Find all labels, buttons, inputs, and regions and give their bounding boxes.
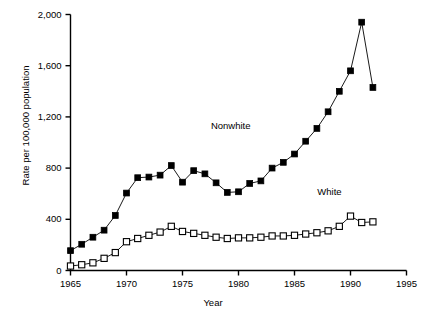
data-point-marker: [224, 235, 230, 241]
series-line: [71, 216, 373, 266]
data-point-marker: [280, 159, 286, 165]
y-tick-label: 2,000: [16, 10, 62, 20]
y-tick-label: 800: [16, 163, 62, 173]
series-label-white: White: [317, 186, 341, 197]
data-point-marker: [236, 189, 242, 195]
data-point-marker: [191, 230, 197, 236]
data-point-marker: [347, 213, 353, 219]
data-point-marker: [179, 228, 185, 234]
data-point-marker: [235, 235, 241, 241]
data-point-marker: [79, 262, 85, 268]
data-point-marker: [303, 231, 309, 237]
data-point-marker: [90, 234, 96, 240]
data-point-marker: [258, 234, 264, 240]
y-tick-label: 1,200: [16, 112, 62, 122]
data-point-marker: [124, 190, 130, 196]
data-point-marker: [202, 232, 208, 238]
data-point-marker: [336, 88, 342, 94]
data-point-marker: [101, 255, 107, 261]
data-point-marker: [348, 68, 354, 74]
data-point-marker: [67, 263, 73, 269]
x-tick-label: 1975: [161, 278, 205, 289]
chart-plot-area: [0, 0, 426, 317]
data-point-marker: [101, 227, 107, 233]
x-tick-label: 1995: [385, 278, 426, 289]
data-point-marker: [135, 175, 141, 181]
data-point-marker: [258, 178, 264, 184]
data-point-marker: [291, 232, 297, 238]
data-point-marker: [112, 249, 118, 255]
data-point-marker: [292, 151, 298, 157]
data-point-marker: [359, 219, 365, 225]
data-point-marker: [68, 248, 74, 254]
data-point-marker: [123, 239, 129, 245]
y-tick-label: 0: [16, 266, 62, 276]
data-point-marker: [146, 174, 152, 180]
axis-lines: [71, 15, 407, 271]
data-point-marker: [213, 180, 219, 186]
data-point-marker: [90, 260, 96, 266]
data-point-marker: [79, 241, 85, 247]
x-tick-label: 1990: [329, 278, 373, 289]
data-point-marker: [146, 232, 152, 238]
data-point-marker: [168, 223, 174, 229]
x-tick-label: 1965: [49, 278, 93, 289]
series-nonwhite: [68, 19, 376, 253]
data-point-marker: [370, 219, 376, 225]
data-point-marker: [191, 168, 197, 174]
data-point-marker: [202, 171, 208, 177]
series-white: [67, 213, 376, 269]
data-point-marker: [280, 233, 286, 239]
data-point-marker: [325, 109, 331, 115]
data-point-marker: [157, 229, 163, 235]
x-tick-label: 1980: [217, 278, 261, 289]
x-axis-title: Year: [0, 297, 426, 308]
y-axis-title: Rate per 100,000 population: [20, 26, 31, 226]
data-point-marker: [314, 126, 320, 132]
data-point-marker: [180, 179, 186, 185]
data-point-marker: [269, 165, 275, 171]
data-point-marker: [325, 228, 331, 234]
data-point-marker: [157, 172, 163, 178]
data-point-marker: [336, 223, 342, 229]
x-tick-label: 1970: [105, 278, 149, 289]
data-point-marker: [269, 233, 275, 239]
x-tick-label: 1985: [273, 278, 317, 289]
data-point-marker: [247, 181, 253, 187]
data-point-marker: [359, 19, 365, 25]
data-point-marker: [135, 235, 141, 241]
data-point-marker: [314, 230, 320, 236]
data-point-marker: [112, 213, 118, 219]
data-point-marker: [247, 235, 253, 241]
chart-figure: Rate per 100,000 population Year 0400800…: [0, 0, 426, 317]
data-point-marker: [370, 85, 376, 91]
series-label-nonwhite: Nonwhite: [211, 120, 251, 131]
y-tick-label: 400: [16, 214, 62, 224]
data-point-marker: [168, 163, 174, 169]
data-point-marker: [303, 138, 309, 144]
y-tick-label: 1,600: [16, 61, 62, 71]
data-point-marker: [224, 190, 230, 196]
data-point-marker: [213, 234, 219, 240]
